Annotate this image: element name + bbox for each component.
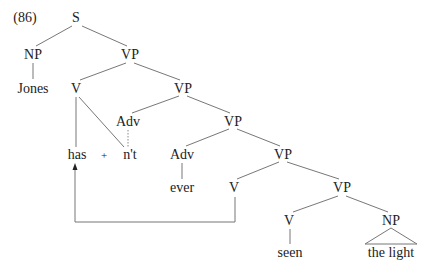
- leaf-the-light: the light: [368, 245, 414, 261]
- node-np-subject: NP: [24, 47, 42, 63]
- node-v-main: V: [284, 213, 294, 229]
- node-vp-2: VP: [174, 81, 192, 97]
- leaf-ever: ever: [170, 180, 194, 196]
- example-number: (86): [13, 10, 36, 26]
- node-vp-1: VP: [121, 47, 139, 63]
- arrowhead-icon: [73, 163, 78, 170]
- node-np-object: NP: [382, 213, 400, 229]
- node-adv-neg: Adv: [116, 114, 140, 130]
- plus-sign: +: [101, 147, 107, 163]
- leaf-has: has: [68, 147, 87, 163]
- node-adv-ever: Adv: [170, 147, 194, 163]
- node-v-trace: V: [229, 180, 239, 196]
- node-v-aux: V: [71, 81, 81, 97]
- node-vp-5: VP: [333, 180, 351, 196]
- node-s: S: [72, 10, 80, 26]
- leaf-jones: Jones: [17, 81, 48, 97]
- leaf-seen: seen: [278, 245, 303, 261]
- tree-edges: [0, 0, 429, 274]
- leaf-nt: n't: [123, 147, 136, 163]
- node-vp-3: VP: [224, 114, 242, 130]
- node-vp-4: VP: [274, 147, 292, 163]
